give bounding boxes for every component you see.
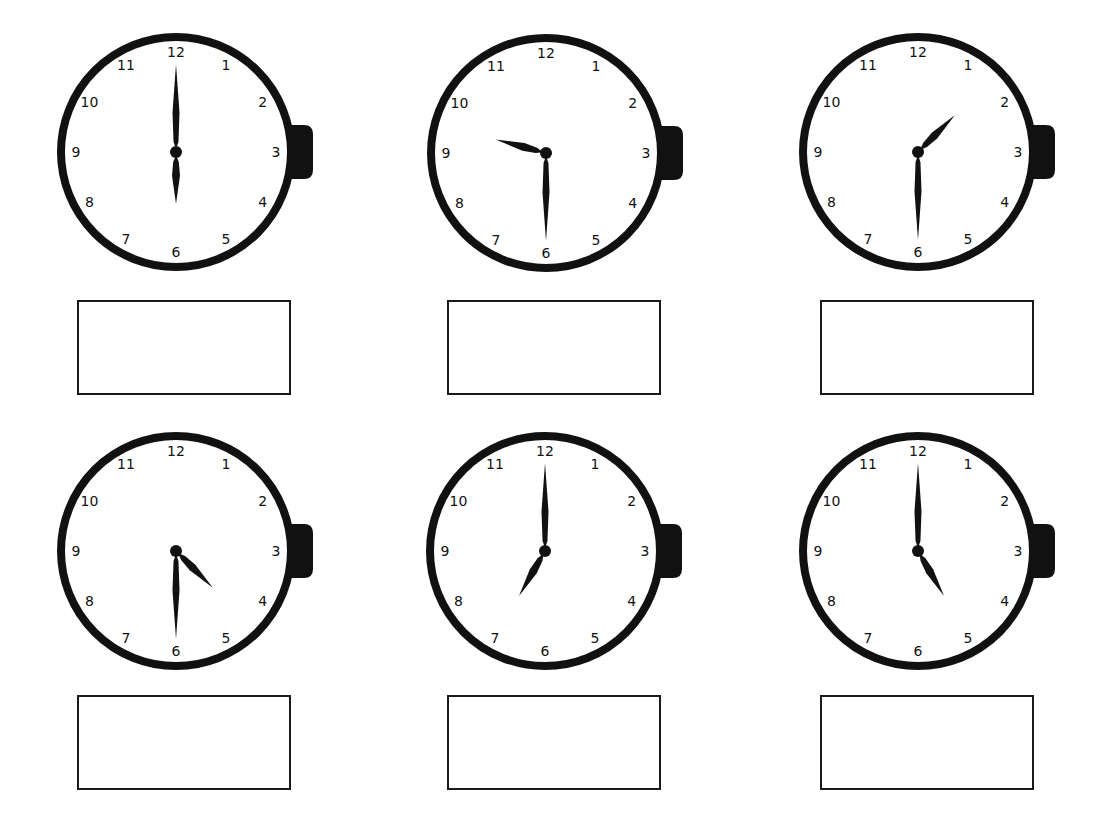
time-answer-box[interactable] — [820, 300, 1034, 395]
clock-number: 8 — [827, 593, 836, 609]
clock-number: 8 — [827, 194, 836, 210]
clock-number: 11 — [117, 57, 135, 73]
clock-number: 12 — [167, 443, 185, 459]
clock-number: 3 — [642, 145, 651, 161]
clock-number: 9 — [72, 144, 81, 160]
clock-number: 3 — [641, 543, 650, 559]
clock-number: 5 — [964, 231, 973, 247]
clock-number: 5 — [964, 630, 973, 646]
clock-number: 9 — [72, 543, 81, 559]
clock-number: 11 — [486, 456, 504, 472]
clock-number: 11 — [117, 456, 135, 472]
center-pin — [540, 147, 552, 159]
clock-number: 5 — [222, 630, 231, 646]
clock-number: 4 — [628, 195, 637, 211]
clock-number: 6 — [914, 244, 923, 260]
clock-number: 4 — [1000, 593, 1009, 609]
clock-number: 5 — [222, 231, 231, 247]
clock-number: 9 — [441, 543, 450, 559]
center-pin — [539, 545, 551, 557]
time-answer-box[interactable] — [77, 695, 291, 790]
center-pin — [912, 545, 924, 557]
clock-number: 6 — [914, 643, 923, 659]
analog-clock: 121234567891011 — [61, 436, 313, 666]
clock-number: 4 — [1000, 194, 1009, 210]
clock-number: 2 — [258, 493, 267, 509]
clock-number: 8 — [85, 194, 94, 210]
clock-number: 10 — [80, 94, 98, 110]
clock-number: 5 — [591, 630, 600, 646]
clock-number: 7 — [491, 630, 500, 646]
clock-worksheet: 1212345678910111212345678910111212345678… — [0, 0, 1102, 826]
clock-number: 12 — [909, 44, 927, 60]
clock-number: 9 — [814, 144, 823, 160]
clock-number: 12 — [909, 443, 927, 459]
clock-number: 11 — [859, 57, 877, 73]
clock-number: 8 — [85, 593, 94, 609]
center-pin — [170, 146, 182, 158]
clock-number: 1 — [964, 57, 973, 73]
clock-number: 4 — [627, 593, 636, 609]
clock-number: 2 — [1000, 94, 1009, 110]
center-pin — [912, 146, 924, 158]
clock-number: 11 — [487, 58, 505, 74]
clock-number: 7 — [492, 232, 501, 248]
clock-number: 7 — [122, 231, 131, 247]
clock-number: 6 — [542, 245, 551, 261]
clock-number: 2 — [627, 493, 636, 509]
clock-number: 10 — [450, 95, 468, 111]
clock-number: 4 — [258, 194, 267, 210]
clock-number: 1 — [591, 456, 600, 472]
clock-number: 3 — [1014, 543, 1023, 559]
clock-number: 6 — [172, 244, 181, 260]
clock-number: 3 — [272, 543, 281, 559]
clock-number: 10 — [449, 493, 467, 509]
time-answer-box[interactable] — [77, 300, 291, 395]
clock-number: 9 — [442, 145, 451, 161]
clock-number: 7 — [864, 231, 873, 247]
time-answer-box[interactable] — [447, 300, 661, 395]
clock-number: 10 — [822, 493, 840, 509]
clock-number: 11 — [859, 456, 877, 472]
clock-number: 2 — [628, 95, 637, 111]
analog-clock: 121234567891011 — [803, 436, 1055, 666]
analog-clock: 121234567891011 — [803, 37, 1055, 267]
clock-number: 3 — [272, 144, 281, 160]
clock-number: 6 — [541, 643, 550, 659]
clock-number: 1 — [592, 58, 601, 74]
analog-clock: 121234567891011 — [61, 37, 313, 267]
clock-number: 8 — [455, 195, 464, 211]
analog-clock: 121234567891011 — [431, 38, 683, 268]
clock-number: 12 — [167, 44, 185, 60]
clock-number: 12 — [536, 443, 554, 459]
analog-clock: 121234567891011 — [430, 436, 682, 666]
clock-number: 1 — [222, 456, 231, 472]
clock-number: 1 — [964, 456, 973, 472]
time-answer-box[interactable] — [820, 695, 1034, 790]
clock-number: 3 — [1014, 144, 1023, 160]
clock-number: 9 — [814, 543, 823, 559]
clock-number: 7 — [122, 630, 131, 646]
time-answer-box[interactable] — [447, 695, 661, 790]
clock-number: 5 — [592, 232, 601, 248]
clock-number: 4 — [258, 593, 267, 609]
clock-number: 10 — [822, 94, 840, 110]
clock-number: 7 — [864, 630, 873, 646]
clock-number: 8 — [454, 593, 463, 609]
clock-number: 12 — [537, 45, 555, 61]
center-pin — [170, 545, 182, 557]
clock-number: 2 — [1000, 493, 1009, 509]
clock-number: 10 — [80, 493, 98, 509]
clock-number: 6 — [172, 643, 181, 659]
clock-number: 2 — [258, 94, 267, 110]
clock-number: 1 — [222, 57, 231, 73]
